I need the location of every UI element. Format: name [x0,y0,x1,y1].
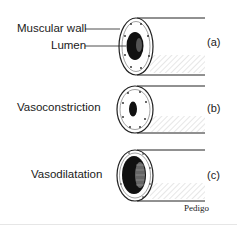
blood-vessel-diagram [0,0,237,231]
vessel-a [85,18,205,75]
credit-pedigo: Pedigo [184,203,209,213]
label-lumen: Lumen [51,39,86,51]
panel-tag-c: (c) [207,169,220,181]
panel-tag-b: (b) [207,102,220,114]
vessel-c [117,150,205,201]
vessel-b [117,86,205,133]
label-vasodilatation: Vasodilatation [31,168,102,180]
label-vasoconstriction: Vasoconstriction [17,101,101,113]
label-muscular-wall: Muscular wall [17,22,87,34]
panel-tag-a: (a) [207,36,220,48]
divider [0,224,237,225]
